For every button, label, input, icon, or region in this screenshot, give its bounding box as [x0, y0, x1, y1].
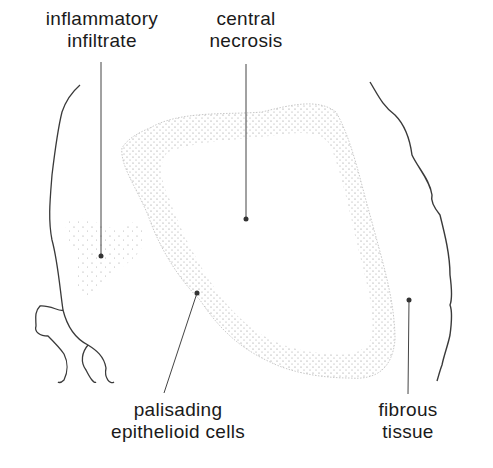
- label-palisading-epithelioid-cells: palisading epithelioid cells: [78, 399, 278, 443]
- label-line: epithelioid cells: [78, 421, 278, 443]
- label-central-necrosis: central necrosis: [186, 8, 306, 52]
- label-line: central: [186, 8, 306, 30]
- label-inflammatory-infiltrate: inflammatory infiltrate: [12, 8, 192, 52]
- label-fibrous-tissue: fibrous tissue: [358, 399, 458, 443]
- label-line: inflammatory: [12, 8, 192, 30]
- label-line: infiltrate: [12, 30, 192, 52]
- label-line: tissue: [358, 421, 458, 443]
- label-line: necrosis: [186, 30, 306, 52]
- label-line: palisading: [78, 399, 278, 421]
- granuloma-illustration: [0, 0, 493, 468]
- label-line: fibrous: [358, 399, 458, 421]
